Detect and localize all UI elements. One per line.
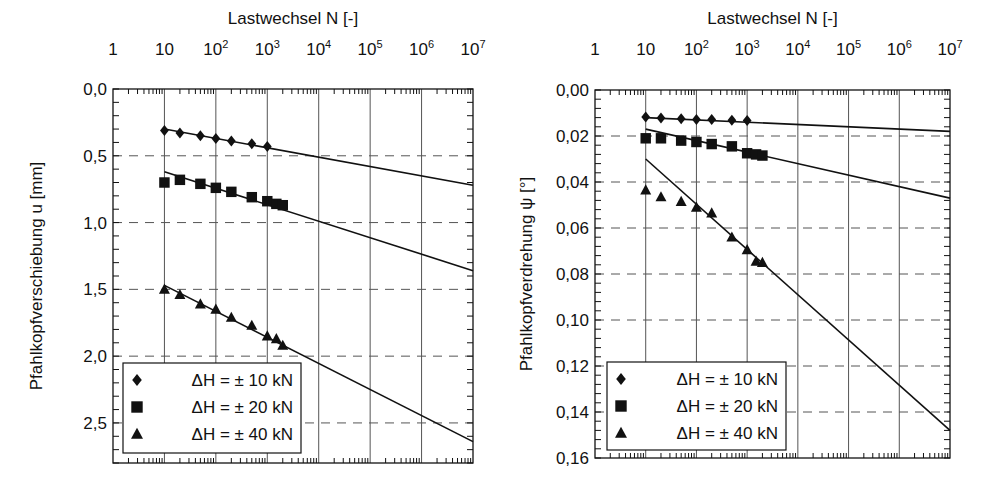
diamond-marker-icon (657, 113, 666, 124)
diamond-marker-icon (727, 115, 736, 126)
legend-label: ΔH = ± 40 kN (677, 424, 778, 443)
triangle-marker-icon (706, 207, 717, 217)
square-marker-icon (615, 400, 626, 411)
x-tick-label: 104 (785, 38, 810, 59)
x-tick-label: 105 (836, 38, 861, 59)
x-tick-label: 10 (636, 40, 655, 59)
x-tick-label: 104 (306, 38, 331, 59)
square-marker-icon (195, 179, 205, 189)
legend-label: ΔH = ± 20 kN (677, 397, 778, 416)
diamond-marker-icon (227, 136, 236, 147)
chart-rotation: Lastwechsel N [-]1101021031041051061070,… (517, 9, 963, 468)
square-marker-icon (262, 196, 272, 206)
diamond-marker-icon (692, 114, 701, 125)
legend-label: ΔH = ± 10 kN (192, 371, 293, 390)
triangle-marker-icon (655, 191, 666, 201)
square-marker-icon (278, 200, 288, 210)
y-tick-label: 0,04 (556, 173, 589, 192)
square-marker-icon (742, 148, 752, 158)
x-tick-label: 105 (358, 38, 383, 59)
y-tick-label: 0,08 (556, 265, 589, 284)
x-tick-label: 107 (937, 38, 962, 59)
x-tick-label: 10 (155, 40, 174, 59)
diamond-marker-icon (743, 115, 752, 126)
triangle-marker-icon (271, 333, 282, 343)
y-tick-label: 0,12 (556, 357, 589, 376)
diamond-marker-icon (196, 130, 205, 141)
triangle-marker-icon (159, 284, 170, 294)
diamond-marker-icon (677, 113, 686, 124)
y-axis-title: Pfahlkopfverschiebung u [mm] (27, 162, 46, 391)
x-tick-label: 103 (735, 38, 760, 59)
x-tick-label: 102 (684, 38, 709, 59)
x-tick-label: 106 (409, 38, 434, 59)
x-axis-title: Lastwechsel N [-] (228, 9, 358, 28)
diamond-marker-icon (176, 128, 185, 139)
square-marker-icon (757, 150, 767, 160)
y-tick-label: 0,14 (556, 403, 589, 422)
legend-label: ΔH = ± 40 kN (192, 425, 293, 444)
chart-displacement: Lastwechsel N [-]1101021031041051061070,… (27, 9, 486, 463)
y-tick-label: 0,0 (83, 80, 107, 99)
triangle-marker-icon (676, 196, 687, 206)
y-tick-label: 2,5 (83, 414, 107, 433)
y-tick-label: 1,5 (83, 280, 107, 299)
figure-canvas: Lastwechsel N [-]1101021031041051061070,… (0, 0, 1007, 498)
y-tick-label: 0,5 (83, 147, 107, 166)
diamond-marker-icon (247, 138, 256, 149)
x-tick-label: 103 (255, 38, 280, 59)
x-axis-title: Lastwechsel N [-] (707, 9, 837, 28)
diamond-marker-icon (263, 141, 272, 152)
square-marker-icon (175, 175, 185, 185)
triangle-marker-icon (246, 320, 257, 330)
square-marker-icon (727, 141, 737, 151)
legend-label: ΔH = ± 20 kN (192, 398, 293, 417)
diamond-marker-icon (160, 125, 169, 136)
square-marker-icon (211, 183, 221, 193)
square-marker-icon (691, 137, 701, 147)
x-tick-label: 1 (590, 40, 599, 59)
diamond-marker-icon (211, 133, 220, 144)
triangle-marker-icon (195, 298, 206, 308)
x-tick-label: 1 (108, 40, 117, 59)
y-tick-label: 0,00 (556, 81, 589, 100)
y-tick-label: 2,0 (83, 347, 107, 366)
y-axis-title: Pfahlkopfverdrehung ψ [°] (517, 177, 536, 372)
square-marker-icon (247, 192, 257, 202)
square-marker-icon (131, 401, 142, 412)
square-marker-icon (159, 177, 169, 187)
diamond-marker-icon (641, 111, 650, 122)
square-marker-icon (656, 133, 666, 143)
square-marker-icon (676, 135, 686, 145)
diamond-marker-icon (707, 114, 716, 125)
square-marker-icon (640, 133, 650, 143)
square-marker-icon (706, 139, 716, 149)
x-tick-label: 102 (203, 38, 228, 59)
x-tick-label: 107 (460, 38, 485, 59)
square-marker-icon (226, 187, 236, 197)
y-tick-label: 0,06 (556, 219, 589, 238)
y-tick-label: 0,02 (556, 127, 589, 146)
y-tick-label: 0,16 (556, 449, 589, 468)
triangle-marker-icon (640, 184, 651, 194)
y-tick-label: 1,0 (83, 214, 107, 233)
x-tick-label: 106 (887, 38, 912, 59)
legend-label: ΔH = ± 10 kN (677, 370, 778, 389)
y-tick-label: 0,10 (556, 311, 589, 330)
